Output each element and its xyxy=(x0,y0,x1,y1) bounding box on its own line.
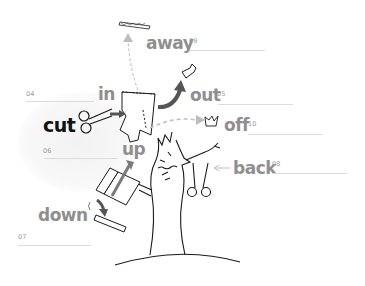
crown-scrap-icon xyxy=(205,116,218,126)
scissors-icon xyxy=(79,109,112,133)
particle-down: down xyxy=(38,207,88,224)
particle-off: off xyxy=(224,117,249,134)
answer-line-up[interactable] xyxy=(44,158,117,159)
item-number-away: 09 xyxy=(189,38,197,45)
arrow-away-icon xyxy=(128,40,138,90)
item-number-off: 10 xyxy=(248,121,256,128)
answer-line-down[interactable] xyxy=(18,245,91,246)
plank-down-icon xyxy=(94,215,126,232)
ground-hill-icon xyxy=(115,254,240,265)
item-number-down: 07 xyxy=(18,234,26,241)
scissors-back-icon xyxy=(188,163,211,197)
particle-in: in xyxy=(98,86,115,103)
answer-line-in[interactable] xyxy=(26,101,94,102)
item-number-back: 08 xyxy=(272,161,280,168)
answer-line-away[interactable] xyxy=(190,50,265,51)
item-number-out: 05 xyxy=(217,91,225,98)
answer-line-off[interactable] xyxy=(248,134,323,135)
tree-icon xyxy=(138,132,220,255)
item-number-up: 06 xyxy=(43,148,51,155)
particle-away: away xyxy=(146,35,193,52)
answer-line-out[interactable] xyxy=(218,104,293,105)
scrap-strip-icon xyxy=(119,22,150,29)
paper-scrap-icon xyxy=(120,92,155,142)
out-scrap-icon xyxy=(182,64,196,78)
arrow-out-icon xyxy=(158,90,180,107)
answer-line-back[interactable] xyxy=(272,173,347,174)
arrow-off-icon xyxy=(150,119,196,128)
particle-back: back xyxy=(233,160,276,177)
particle-out: out xyxy=(190,87,220,104)
particle-up: up xyxy=(122,141,145,158)
item-number-in: 04 xyxy=(26,91,34,98)
main-verb-cut: cut xyxy=(43,116,75,135)
